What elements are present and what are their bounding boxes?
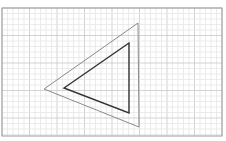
grid-diagram-canvas <box>0 0 226 141</box>
canvas-background <box>0 0 226 141</box>
graph-paper-grid <box>2 8 222 136</box>
